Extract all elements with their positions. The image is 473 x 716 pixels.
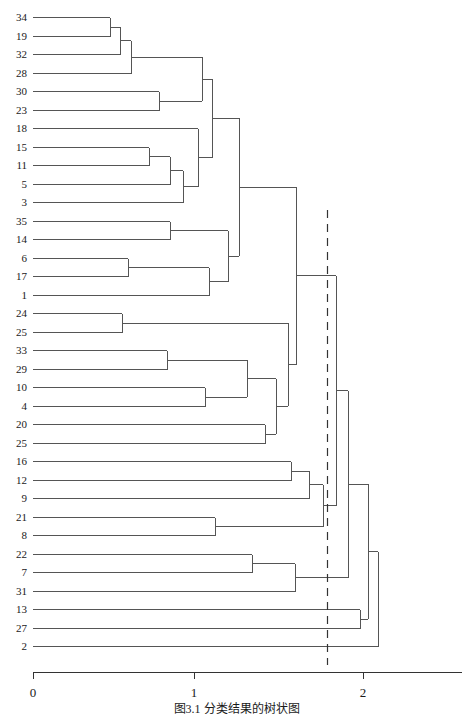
leaf-label: 8 — [0, 530, 27, 541]
leaf-label: 10 — [0, 382, 27, 393]
leaf-label: 25 — [0, 438, 27, 449]
dendrogram-figure: 3419322830231815115335146171242533291042… — [0, 0, 473, 716]
leaf-label: 15 — [0, 142, 27, 153]
leaf-label: 11 — [0, 160, 27, 171]
leaf-label: 1 — [0, 290, 27, 301]
leaf-label: 21 — [0, 512, 27, 523]
leaf-label: 25 — [0, 327, 27, 338]
leaf-label: 29 — [0, 364, 27, 375]
leaf-label: 14 — [0, 234, 27, 245]
leaf-label: 20 — [0, 419, 27, 430]
leaf-label: 24 — [0, 308, 27, 319]
leaf-label: 30 — [0, 86, 27, 97]
leaf-label: 2 — [0, 641, 27, 652]
leaf-label: 16 — [0, 456, 27, 467]
dendrogram-branches — [33, 18, 379, 647]
leaf-label: 5 — [0, 179, 27, 190]
leaf-label: 28 — [0, 68, 27, 79]
leaf-label: 9 — [0, 493, 27, 504]
leaf-label: 4 — [0, 401, 27, 412]
leaf-label: 27 — [0, 623, 27, 634]
leaf-label: 31 — [0, 586, 27, 597]
x-axis — [33, 672, 462, 679]
leaf-label: 17 — [0, 271, 27, 282]
leaf-label: 13 — [0, 604, 27, 615]
dendrogram-plot — [0, 0, 473, 716]
leaf-label: 22 — [0, 549, 27, 560]
leaf-label: 34 — [0, 12, 27, 23]
figure-caption: 图3.1 分类结果的树状图 — [0, 702, 473, 716]
leaf-label: 23 — [0, 105, 27, 116]
leaf-label: 18 — [0, 123, 27, 134]
leaf-label: 3 — [0, 197, 27, 208]
leaf-label: 7 — [0, 567, 27, 578]
x-tick-label: 1 — [174, 686, 214, 699]
x-tick-label: 2 — [343, 686, 383, 699]
leaf-label: 19 — [0, 31, 27, 42]
leaf-label: 6 — [0, 253, 27, 264]
leaf-label: 12 — [0, 475, 27, 486]
x-tick-label: 0 — [13, 686, 53, 699]
leaf-label: 33 — [0, 345, 27, 356]
leaf-label: 32 — [0, 49, 27, 60]
leaf-label: 35 — [0, 216, 27, 227]
